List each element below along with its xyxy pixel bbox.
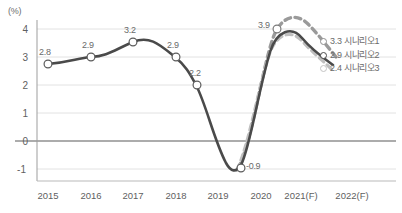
x-tick-2022: 2022(F)	[326, 190, 378, 201]
data-point-2018	[172, 53, 180, 61]
x-tick-2019: 2019	[196, 190, 240, 201]
x-tick-2016: 2016	[69, 190, 113, 201]
data-point-2017	[129, 38, 137, 46]
data-label-2016: 2.9	[82, 40, 94, 50]
plot-area	[0, 0, 402, 213]
series-line-actual	[48, 31, 333, 170]
x-tick-2021: 2021(F)	[275, 190, 327, 201]
legend-item-scenario2[interactable]: 2.9 시나리오2	[320, 50, 379, 61]
legend-marker-icon-scenario3	[320, 65, 327, 72]
data-label-2017: 3.2	[124, 25, 136, 35]
x-tick-2018: 2018	[154, 190, 198, 201]
legend: 3.3 시나리오1 2.9 시나리오2 2.4 시나리오3	[320, 36, 379, 74]
data-point-2019	[193, 81, 201, 89]
legend-label-scenario3: 2.4 시나리오3	[330, 63, 379, 74]
legend-marker-icon-scenario1	[320, 38, 327, 45]
legend-label-scenario1: 3.3 시나리오1	[330, 36, 379, 47]
data-label-2020: -0.9	[246, 161, 260, 171]
legend-marker-icon-scenario2	[320, 52, 327, 59]
data-label-2018: 2.9	[167, 40, 179, 50]
data-point-2020	[237, 164, 245, 172]
legend-item-scenario3[interactable]: 2.4 시나리오3	[320, 63, 379, 74]
x-tick-2017: 2017	[111, 190, 155, 201]
data-label-2015: 2.8	[39, 47, 51, 57]
legend-label-scenario2: 2.9 시나리오2	[330, 50, 379, 61]
data-point-2016	[87, 53, 95, 61]
data-point-2021	[273, 25, 281, 33]
data-label-2019: 2.2	[189, 68, 201, 78]
legend-item-scenario1[interactable]: 3.3 시나리오1	[320, 36, 379, 47]
x-tick-2015: 2015	[26, 190, 70, 201]
data-label-2021: 3.9	[258, 20, 270, 30]
data-point-2015	[44, 60, 52, 68]
chart-container: (%) 4 3 2 1 0 -1 2.8 2.9 3.2	[0, 0, 402, 213]
